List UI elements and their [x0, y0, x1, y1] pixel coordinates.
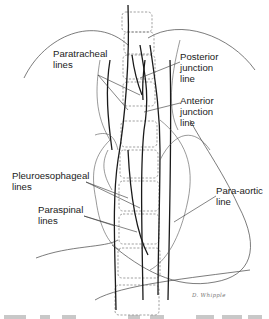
label-anterior-junction-line: Anterior junction line — [180, 95, 214, 128]
leader-line-paratracheal — [98, 75, 140, 95]
label-line: lines — [53, 59, 107, 70]
label-line: Anterior — [180, 95, 214, 106]
label-line: line — [180, 73, 218, 84]
leader-line-pleuroesophageal — [86, 182, 128, 198]
label-line: Posterior — [180, 51, 218, 62]
label-line: lines — [38, 215, 83, 226]
vertebral-column — [115, 12, 160, 315]
label-line: Para-aortic — [216, 185, 263, 196]
cropped-caption — [0, 313, 269, 319]
label-paraspinal-lines: Paraspinal lines — [38, 204, 83, 226]
label-para-aortic-line: Para-aortic line — [216, 185, 263, 207]
label-line: lines — [12, 181, 89, 192]
label-line: junction — [180, 106, 214, 117]
label-line: Paraspinal — [38, 204, 83, 215]
label-paratracheal-lines: Paratracheal lines — [53, 48, 107, 70]
leader-line-paratracheal — [98, 75, 128, 110]
lung-outline — [24, 29, 255, 300]
anatomy-illustration — [0, 0, 269, 319]
mediastinal-lines-figure: Paratracheal lines Posterior junction li… — [0, 0, 269, 319]
label-posterior-junction-line: Posterior junction line — [180, 51, 218, 84]
leader-line-anterior-junction — [144, 103, 180, 112]
label-line: line — [216, 196, 263, 207]
artist-signature: D. Whipple — [192, 292, 226, 298]
label-line: Paratracheal — [53, 48, 107, 59]
label-line: Pleuroesophageal — [12, 170, 89, 181]
leader-line-para-aortic — [174, 196, 216, 222]
label-line: junction — [180, 62, 218, 73]
label-line: line — [180, 117, 214, 128]
label-pleuroesophageal-lines: Pleuroesophageal lines — [12, 170, 89, 192]
leader-line-paraspinal — [84, 216, 137, 232]
